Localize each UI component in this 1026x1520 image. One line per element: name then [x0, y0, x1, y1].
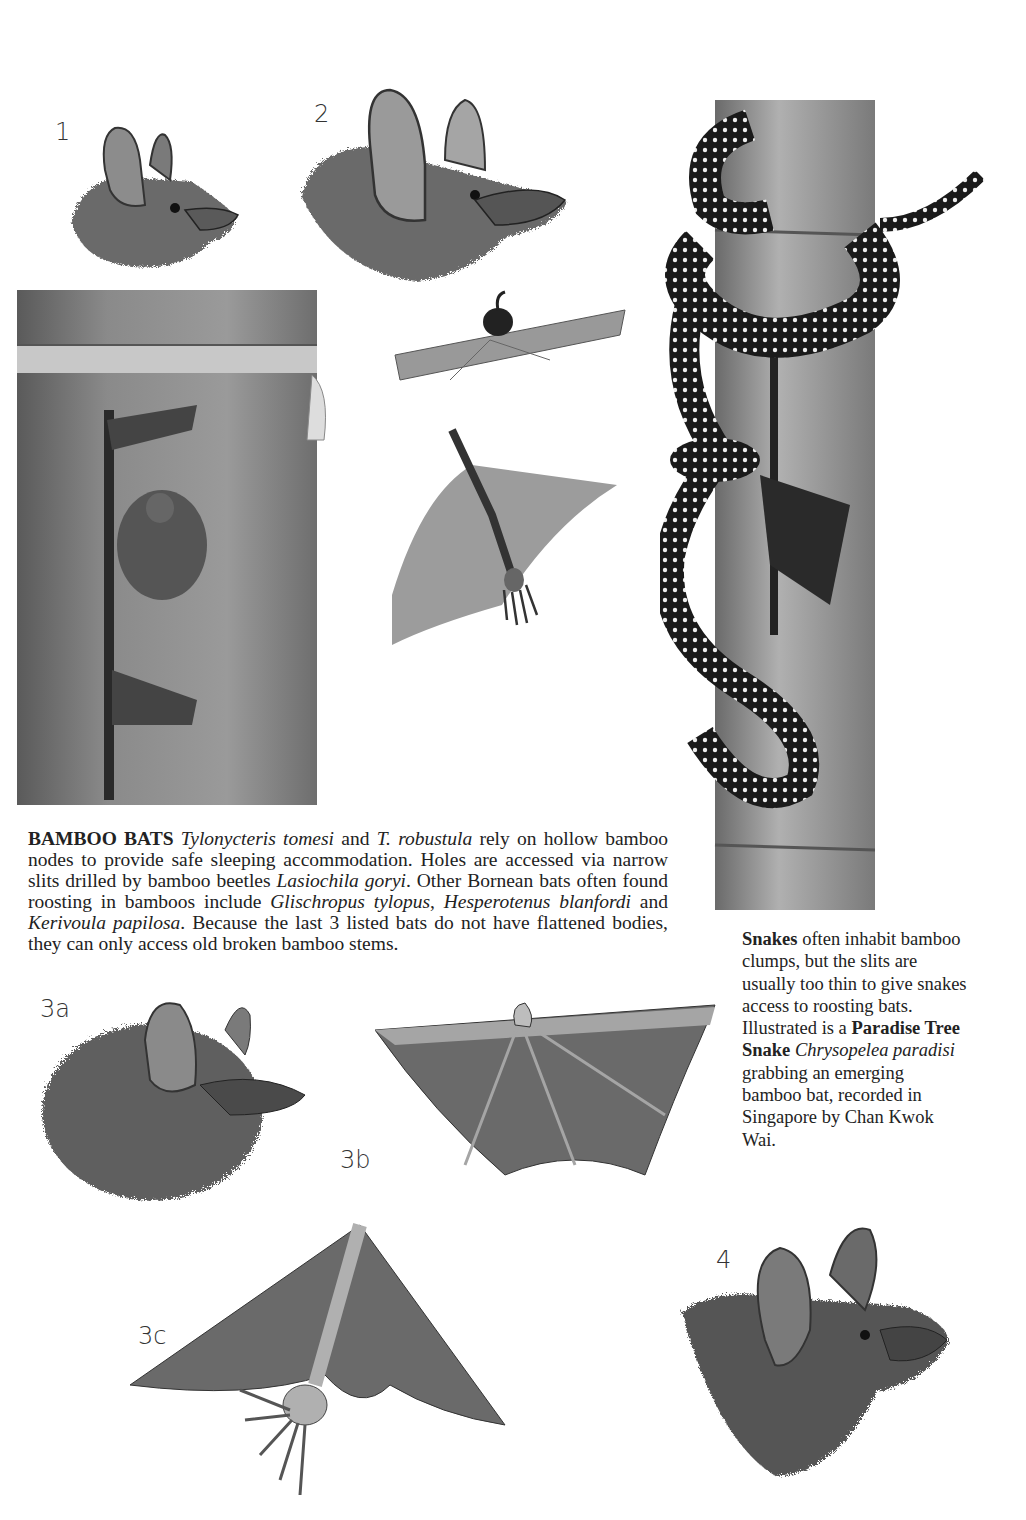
species-name: Tylonycteris tomesi: [181, 828, 334, 849]
bat-head-illustration-3a: [30, 990, 315, 1205]
thumb-pad-detail-illustration: [390, 290, 630, 390]
figure-label-3b: 3b: [340, 1146, 371, 1174]
species-name: Chrysopelea paradisi: [795, 1040, 955, 1060]
bat-head-illustration-1: [60, 120, 250, 270]
caption-text: ,: [430, 891, 444, 912]
species-name: Lasiochila goryi: [277, 870, 406, 891]
caption-heading: Snakes: [742, 929, 798, 949]
caption-text: and: [334, 828, 377, 849]
foot-pad-detail-illustration: [392, 425, 622, 650]
bat-wing-illustration-3b: [375, 995, 720, 1180]
bamboo-bats-caption: BAMBOO BATS Tylonycteris tomesi and T. r…: [28, 828, 668, 954]
snakes-caption: Snakes often inhabit bamboo clumps, but …: [742, 928, 967, 1151]
bamboo-stem-with-bat-illustration: [12, 290, 330, 805]
bat-head-illustration-2: [295, 85, 580, 285]
caption-text: and: [631, 891, 668, 912]
species-name: Hesperotenus blanfordi: [444, 891, 631, 912]
species-name: Kerivoula papilosa: [28, 912, 180, 933]
paradise-tree-snake-illustration: [660, 85, 1000, 910]
bat-wing-illustration-3c: [130, 1215, 510, 1505]
bat-head-illustration-4: [675, 1220, 955, 1480]
caption-text: grabbing an emerging bamboo bat, recorde…: [742, 1063, 934, 1150]
species-name: T. robustula: [377, 828, 473, 849]
species-name: Glischropus tylopus: [270, 891, 430, 912]
caption-heading: BAMBOO BATS: [28, 828, 181, 849]
